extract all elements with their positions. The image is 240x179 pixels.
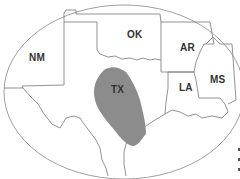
state-nm (4, 13, 64, 88)
label-la: LA (179, 82, 193, 93)
edge-mark-3 (238, 168, 240, 171)
state-ok-border (64, 10, 161, 60)
label-ok: OK (127, 29, 142, 40)
label-nm: NM (29, 52, 45, 63)
label-ms: MS (210, 74, 225, 85)
tx-highlight-region (94, 67, 146, 146)
label-tx: TX (111, 84, 124, 95)
texas-rio-grande (23, 88, 108, 176)
edge-mark-1 (238, 148, 240, 151)
label-ar: AR (180, 42, 195, 53)
edge-mark-2 (238, 158, 240, 161)
